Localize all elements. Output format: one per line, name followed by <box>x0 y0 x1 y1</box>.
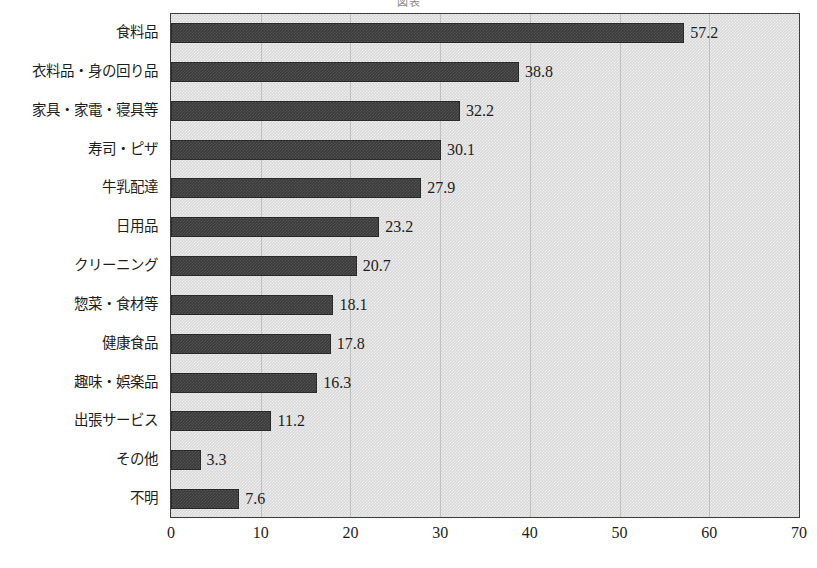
bar[interactable] <box>171 489 239 509</box>
category-label: 牛乳配達 <box>0 177 158 197</box>
bar-chart-figure: 図表 食料品衣料品・身の回り品家具・家電・寝具等寿司・ピザ牛乳配達日用品クリーニ… <box>0 0 817 568</box>
bar[interactable] <box>171 23 684 43</box>
category-label: 衣料品・身の回り品 <box>0 61 158 81</box>
bar[interactable] <box>171 62 519 82</box>
bar[interactable] <box>171 178 421 198</box>
x-axis-tick-label: 30 <box>432 524 448 542</box>
category-label: 出張サービス <box>0 410 158 430</box>
bar-row[interactable]: 30.1 <box>171 131 799 170</box>
bar[interactable] <box>171 256 357 276</box>
bar-row[interactable]: 20.7 <box>171 247 799 286</box>
x-axis-tick-label: 70 <box>791 524 807 542</box>
bar-value-label: 16.3 <box>323 373 351 393</box>
category-label: 健康食品 <box>0 333 158 353</box>
bar-row[interactable]: 17.8 <box>171 325 799 364</box>
bar-row[interactable]: 57.2 <box>171 14 799 53</box>
category-label: その他 <box>0 449 158 469</box>
x-axis-tick-label: 60 <box>701 524 717 542</box>
bar-value-label: 27.9 <box>427 178 455 198</box>
bar-row[interactable]: 18.1 <box>171 286 799 325</box>
x-axis-tick-label: 0 <box>167 524 175 542</box>
bar[interactable] <box>171 140 441 160</box>
bar[interactable] <box>171 334 331 354</box>
bar-row[interactable]: 38.8 <box>171 53 799 92</box>
bar-row[interactable]: 32.2 <box>171 92 799 131</box>
bar[interactable] <box>171 101 460 121</box>
category-label: 家具・家電・寝具等 <box>0 100 158 120</box>
category-label: 食料品 <box>0 22 158 42</box>
bar[interactable] <box>171 373 317 393</box>
category-label: 寿司・ピザ <box>0 139 158 159</box>
bar-value-label: 18.1 <box>339 295 367 315</box>
x-axis-tick-label: 50 <box>612 524 628 542</box>
plot-area: 57.238.832.230.127.923.220.718.117.816.3… <box>170 13 800 518</box>
bar-value-label: 11.2 <box>277 411 304 431</box>
chart-title: 図表 <box>0 0 817 7</box>
x-axis-tick-label: 10 <box>253 524 269 542</box>
bar[interactable] <box>171 450 201 470</box>
bar-value-label: 57.2 <box>690 23 718 43</box>
bar-value-label: 20.7 <box>363 256 391 276</box>
bar-value-label: 30.1 <box>447 140 475 160</box>
category-label: 惣菜・食材等 <box>0 294 158 314</box>
bar[interactable] <box>171 295 333 315</box>
bar-row[interactable]: 7.6 <box>171 480 799 518</box>
bar-row[interactable]: 27.9 <box>171 169 799 208</box>
category-label: 趣味・娯楽品 <box>0 372 158 392</box>
bar-row[interactable]: 16.3 <box>171 364 799 403</box>
category-label: クリーニング <box>0 255 158 275</box>
bar-value-label: 23.2 <box>385 217 413 237</box>
x-axis-tick-label: 40 <box>522 524 538 542</box>
category-label: 日用品 <box>0 216 158 236</box>
bar-row[interactable]: 23.2 <box>171 208 799 247</box>
value-axis-labels: 010203040506070 <box>0 524 817 550</box>
bar-value-label: 3.3 <box>207 450 227 470</box>
bar[interactable] <box>171 411 271 431</box>
category-axis-labels: 食料品衣料品・身の回り品家具・家電・寝具等寿司・ピザ牛乳配達日用品クリーニング惣… <box>0 13 166 518</box>
bar[interactable] <box>171 217 379 237</box>
x-axis-tick-label: 20 <box>342 524 358 542</box>
gridline <box>799 14 800 517</box>
category-label: 不明 <box>0 488 158 508</box>
bar-value-label: 38.8 <box>525 62 553 82</box>
bar-value-label: 7.6 <box>245 489 265 509</box>
bar-value-label: 17.8 <box>337 334 365 354</box>
bar-row[interactable]: 3.3 <box>171 441 799 480</box>
bar-value-label: 32.2 <box>466 101 494 121</box>
bar-row[interactable]: 11.2 <box>171 402 799 441</box>
